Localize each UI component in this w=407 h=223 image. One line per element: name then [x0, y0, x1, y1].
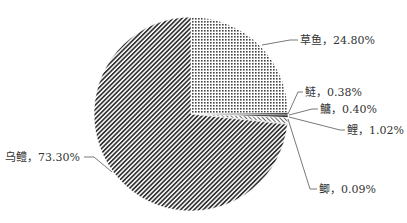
pie-slices — [94, 17, 288, 211]
label-caoyu: 草鱼，24.80% — [300, 33, 375, 47]
leader-line-caoyu — [262, 40, 298, 45]
label-lian: 鲢，0.38% — [305, 85, 362, 99]
leader-line-yong — [289, 109, 318, 115]
leader-line-li — [289, 117, 345, 130]
label-wuli: 乌鳢，73.30% — [5, 150, 80, 164]
label-ji: 鲫，0.09% — [319, 182, 376, 196]
label-li: 鲤，1.02% — [347, 123, 404, 137]
leader-line-lian — [288, 92, 303, 114]
pie-slice-0 — [191, 17, 288, 114]
label-yong: 鳙，0.40% — [320, 102, 377, 116]
pie-chart: 草鱼，24.80% 鲢，0.38% 鳙，0.40% 鲤，1.02% 鲫，0.09… — [0, 0, 407, 223]
leader-line-ji — [288, 119, 317, 189]
